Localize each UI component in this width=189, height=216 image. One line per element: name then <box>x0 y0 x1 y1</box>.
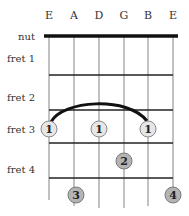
fret-2-label: fret 2 <box>7 92 35 103</box>
svg-text:3: 3 <box>72 189 80 202</box>
finger-dot: 2 <box>116 153 132 169</box>
string-label-a: A <box>69 9 79 22</box>
svg-text:1: 1 <box>45 123 53 136</box>
finger-dot: 4 <box>165 187 181 203</box>
svg-text:1: 1 <box>144 123 152 136</box>
nut-label: nut <box>18 31 35 42</box>
svg-text:1: 1 <box>95 123 103 136</box>
string-label-e-high: E <box>169 9 177 22</box>
string-label-g: G <box>120 9 129 22</box>
fret-1-label: fret 1 <box>7 53 35 64</box>
string-label-b: B <box>144 9 152 22</box>
finger-dot: 1 <box>140 121 156 137</box>
string-label-d: D <box>95 9 104 22</box>
finger-dot: 3 <box>68 187 84 203</box>
finger-dot: 1 <box>41 121 57 137</box>
fret-4-label: fret 4 <box>7 164 35 175</box>
svg-text:4: 4 <box>169 189 177 202</box>
strings <box>49 36 173 208</box>
chord-diagram: E A D G B E nut fret 1 fret 2 fret 3 fre… <box>0 0 189 216</box>
svg-text:2: 2 <box>120 155 128 168</box>
string-label-e-low: E <box>45 9 53 22</box>
fret-3-label: fret 3 <box>7 124 35 135</box>
finger-dot: 1 <box>91 121 107 137</box>
